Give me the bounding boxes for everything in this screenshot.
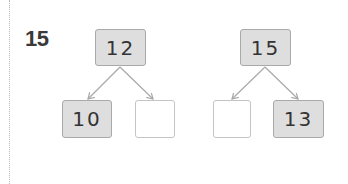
arrow-left-tree-left <box>88 67 120 99</box>
tree2-right-box: 13 <box>273 100 324 138</box>
tree1-left-box: 10 <box>62 100 112 138</box>
tree1-top-box: 12 <box>95 29 146 66</box>
tree2-answer-box[interactable] <box>213 100 251 138</box>
arrow-left-tree-right <box>120 67 153 99</box>
tree2-top-box: 15 <box>240 29 291 66</box>
tree1-answer-box[interactable] <box>135 100 175 138</box>
arrow-right-tree-right <box>265 67 298 99</box>
arrow-lines <box>0 0 348 184</box>
arrow-right-tree-left <box>232 67 265 99</box>
